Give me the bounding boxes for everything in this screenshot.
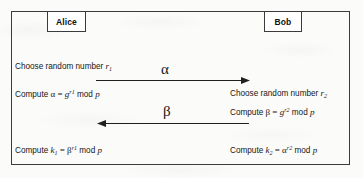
- bob-mod-operator: mod: [290, 108, 310, 117]
- bob-compute-key-line: Compute k2 = αr2 mod p: [230, 145, 317, 156]
- bob-key-equals: =: [273, 145, 283, 155]
- message-arrow-bob-to-alice: [94, 117, 254, 131]
- bob-choose-random-line: Choose random number r2: [230, 89, 327, 99]
- bob-modulus: p: [310, 107, 315, 117]
- bob-compute-equals: =: [270, 107, 280, 117]
- bob-random-var-subscript: 2: [324, 93, 327, 99]
- alice-choose-prefix: Choose random number: [15, 62, 106, 71]
- alice-key-modulus: p: [98, 145, 103, 155]
- bob-key-prefix: Compute: [230, 146, 266, 155]
- alice-modulus: p: [95, 89, 100, 99]
- alice-compute-equals: =: [55, 89, 65, 99]
- message-label-beta: β: [163, 104, 171, 119]
- message-arrow-alice-to-bob: [94, 74, 254, 88]
- bob-key-modulus: p: [313, 145, 318, 155]
- alice-mod-operator: mod: [75, 90, 95, 99]
- alice-compute-prefix: Compute: [15, 90, 51, 99]
- party-box-alice: Alice: [47, 11, 86, 32]
- diagram-outer-frame: [11, 11, 350, 165]
- party-box-bob: Bob: [264, 11, 302, 32]
- bob-compute-beta-line: Compute β = gr2 mod p: [230, 107, 315, 117]
- party-label-bob: Bob: [275, 17, 292, 27]
- alice-choose-random-line: Choose random number r1: [15, 62, 112, 72]
- alice-key-equals: =: [58, 145, 68, 155]
- alice-key-mod-operator: mod: [77, 146, 97, 155]
- alice-compute-alpha-line: Compute α = gr1 mod p: [15, 89, 100, 99]
- diffie-hellman-diagram: Alice Bob Choose random number r1 Comput…: [0, 0, 363, 178]
- alice-compute-key-line: Compute k1 = βr1 mod p: [15, 145, 102, 156]
- message-label-alpha: α: [161, 62, 169, 77]
- bob-choose-prefix: Choose random number: [230, 89, 321, 98]
- bob-key-mod-operator: mod: [292, 146, 312, 155]
- bob-compute-prefix: Compute: [230, 108, 266, 117]
- alice-key-prefix: Compute: [15, 146, 51, 155]
- alice-random-var-subscript: 1: [109, 66, 112, 72]
- party-label-alice: Alice: [56, 17, 77, 27]
